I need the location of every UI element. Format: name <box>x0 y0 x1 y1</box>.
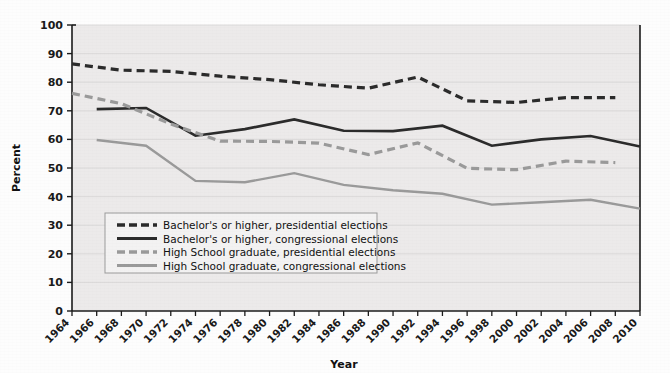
x-tick-label-2002: 2002 <box>511 316 540 345</box>
y-tick-label-10: 10 <box>48 276 64 289</box>
line-chart: 0102030405060708090100Percent19641966196… <box>0 0 670 373</box>
x-tick-label-1970: 1970 <box>116 316 145 345</box>
x-tick-label-2006: 2006 <box>561 316 590 345</box>
legend-label-3: High School graduate, congressional elec… <box>163 260 406 272</box>
x-tick-label-1988: 1988 <box>339 316 368 345</box>
x-tick-label-1998: 1998 <box>462 316 491 345</box>
x-tick-label-1994: 1994 <box>413 316 442 345</box>
chart-figure: 0102030405060708090100Percent19641966196… <box>0 0 670 373</box>
x-tick-label-1986: 1986 <box>314 316 343 345</box>
x-tick-label-1964: 1964 <box>42 316 71 345</box>
x-tick-label-1990: 1990 <box>363 316 392 345</box>
x-axis-title: Year <box>329 358 358 371</box>
x-tick-label-1984: 1984 <box>289 316 318 345</box>
x-tick-label-1996: 1996 <box>437 316 466 345</box>
legend-label-2: High School graduate, presidential elect… <box>163 246 395 258</box>
x-tick-label-1968: 1968 <box>92 316 121 345</box>
y-tick-label-90: 90 <box>48 48 64 61</box>
y-tick-label-30: 30 <box>48 219 64 232</box>
y-tick-label-60: 60 <box>48 133 64 146</box>
y-tick-label-20: 20 <box>48 248 64 261</box>
y-tick-label-50: 50 <box>48 162 64 175</box>
legend-label-1: Bachelor's or higher, congressional elec… <box>163 233 398 245</box>
x-tick-label-1982: 1982 <box>265 316 294 345</box>
x-tick-label-1976: 1976 <box>190 316 219 345</box>
y-tick-label-80: 80 <box>48 76 64 89</box>
legend-label-0: Bachelor's or higher, presidential elect… <box>163 219 388 231</box>
x-tick-label-1972: 1972 <box>141 316 170 345</box>
x-tick-label-1992: 1992 <box>388 316 417 345</box>
x-tick-label-2000: 2000 <box>487 316 516 345</box>
x-tick-label-2010: 2010 <box>610 316 639 345</box>
x-tick-label-1978: 1978 <box>215 316 244 345</box>
x-tick-label-2008: 2008 <box>586 316 615 345</box>
x-tick-label-1966: 1966 <box>67 316 96 345</box>
x-tick-label-2004: 2004 <box>536 316 565 345</box>
y-axis-title: Percent <box>10 144 23 192</box>
x-tick-label-1974: 1974 <box>166 316 195 345</box>
y-tick-label-40: 40 <box>48 191 64 204</box>
y-tick-label-70: 70 <box>48 105 64 118</box>
y-tick-label-100: 100 <box>40 19 63 32</box>
x-tick-label-1980: 1980 <box>240 316 269 345</box>
